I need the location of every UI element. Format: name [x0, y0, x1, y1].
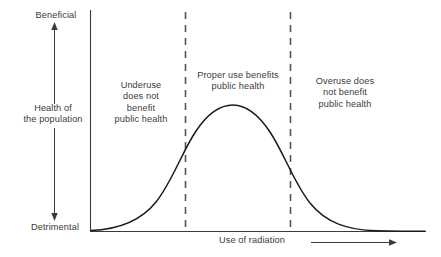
- radiation-use-health-diagram: Beneficial Health of the population Detr…: [0, 0, 441, 257]
- y-axis-up-arrow-icon: [51, 22, 57, 104]
- y-axis-top-label: Beneficial: [18, 10, 94, 21]
- y-axis-bottom-label: Detrimental: [16, 222, 94, 233]
- plot-canvas: [0, 0, 441, 257]
- zone-label-underuse: Underuse does not benefit public health: [101, 80, 181, 126]
- zone-label-overuse: Overuse does not benefit public health: [299, 76, 391, 110]
- x-axis-title: Use of radiation: [200, 235, 304, 246]
- y-axis-down-arrow-icon: [51, 128, 57, 221]
- y-axis-title: Health of the population: [10, 103, 96, 126]
- x-axis-right-arrow-icon: [311, 239, 397, 245]
- zone-label-proper-use: Proper use benefits public health: [186, 70, 290, 93]
